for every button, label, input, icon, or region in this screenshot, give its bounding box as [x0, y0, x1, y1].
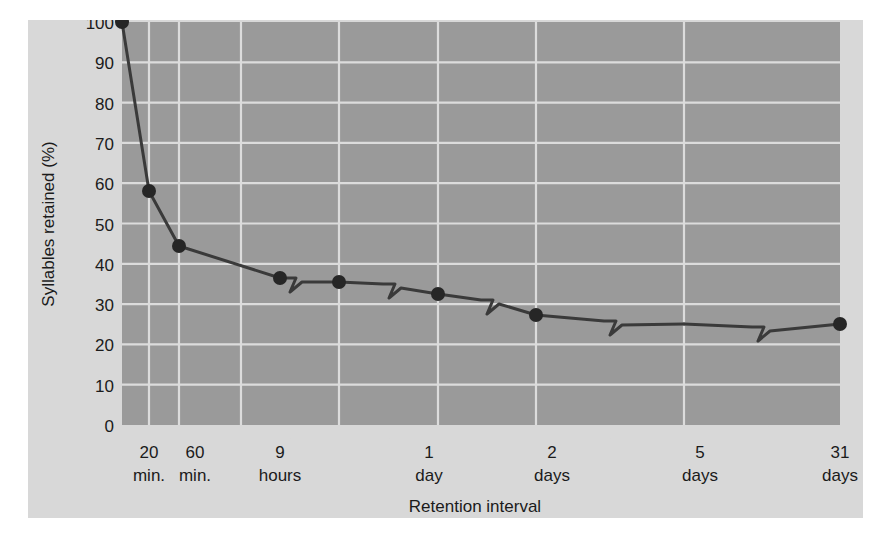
- data-point: [172, 239, 186, 253]
- x-tick-label-top: 20: [140, 443, 159, 462]
- x-axis-break-marks: [284, 425, 782, 450]
- y-tick-label: 10: [95, 377, 114, 396]
- x-axis-title: Retention interval: [409, 497, 541, 516]
- y-tick-label: 30: [95, 296, 114, 315]
- forgetting-curve-chart: 100 90 80 70 60 50 40 30 20 10 0 Syllabl…: [28, 20, 863, 518]
- x-tick-label-top: 31: [831, 443, 850, 462]
- x-tick-label-top: 1: [424, 443, 433, 462]
- y-tick-label: 60: [95, 175, 114, 194]
- figure-root: 100 90 80 70 60 50 40 30 20 10 0 Syllabl…: [0, 0, 889, 542]
- y-tick-label: 70: [95, 135, 114, 154]
- y-tick-label: 100: [86, 20, 114, 33]
- data-point: [431, 287, 445, 301]
- x-tick-label-bottom: hours: [259, 466, 302, 485]
- y-axis-title: Syllables retained (%): [39, 141, 58, 306]
- x-tick-label-bottom: min.: [179, 466, 211, 485]
- data-point: [833, 317, 847, 331]
- x-tick-label-bottom: days: [822, 466, 858, 485]
- data-point: [529, 308, 543, 322]
- data-point: [273, 271, 287, 285]
- x-tick-label-top: 9: [275, 443, 284, 462]
- x-tick-label-bottom: min.: [133, 466, 165, 485]
- y-tick-label: 40: [95, 256, 114, 275]
- y-tick-label: 0: [105, 417, 114, 436]
- chart-card: 100 90 80 70 60 50 40 30 20 10 0 Syllabl…: [28, 20, 863, 518]
- data-point: [332, 275, 346, 289]
- y-axis-tick-labels: 100 90 80 70 60 50 40 30 20 10 0: [86, 20, 114, 436]
- x-tick-label-bottom: days: [682, 466, 718, 485]
- x-tick-label-top: 5: [695, 443, 704, 462]
- x-tick-label-bottom: days: [534, 466, 570, 485]
- x-tick-label-bottom: day: [415, 466, 443, 485]
- y-tick-label: 80: [95, 95, 114, 114]
- y-tick-label: 50: [95, 216, 114, 235]
- x-tick-label-top: 2: [547, 443, 556, 462]
- y-tick-label: 90: [95, 54, 114, 73]
- y-tick-label: 20: [95, 336, 114, 355]
- data-point: [142, 184, 156, 198]
- x-tick-label-top: 60: [186, 443, 205, 462]
